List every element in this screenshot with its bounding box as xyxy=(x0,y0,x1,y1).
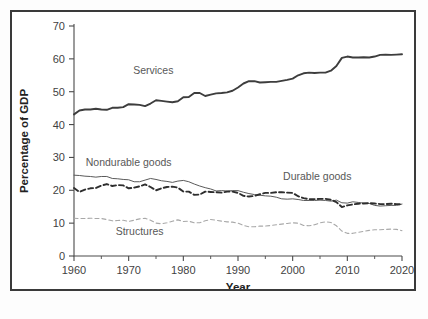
y-tick-label: 0 xyxy=(59,250,65,262)
series-line-services xyxy=(74,54,402,114)
y-tick-label: 50 xyxy=(53,86,65,98)
axis-spines xyxy=(74,24,402,256)
x-tick-label: 1990 xyxy=(226,264,250,276)
x-tick-label: 1980 xyxy=(171,264,195,276)
series-label-services: Services xyxy=(133,64,173,76)
x-axis-title: Year xyxy=(226,281,251,289)
y-tick-label: 20 xyxy=(53,184,65,196)
x-tick-label: 2000 xyxy=(280,264,304,276)
figure-frame: 0102030405060701960197019801990200020102… xyxy=(10,10,416,291)
y-tick-label: 60 xyxy=(53,53,65,65)
y-tick-label: 10 xyxy=(53,217,65,229)
x-tick-label: 2010 xyxy=(335,264,359,276)
y-tick-label: 30 xyxy=(53,151,65,163)
series-label-structures: Structures xyxy=(116,225,164,237)
series-line-durable-goods xyxy=(74,184,402,207)
y-axis-title: Percentage of GDP xyxy=(18,89,30,193)
x-tick-label: 1960 xyxy=(62,264,86,276)
series-label-nondurable-goods: Nondurable goods xyxy=(86,156,172,168)
line-chart: 0102030405060701960197019801990200020102… xyxy=(12,12,414,289)
x-tick-label: 2020 xyxy=(390,264,414,276)
y-tick-label: 40 xyxy=(53,119,65,131)
figure-container: 0102030405060701960197019801990200020102… xyxy=(0,0,428,319)
series-line-nondurable-goods xyxy=(74,175,402,206)
y-tick-label: 70 xyxy=(53,20,65,32)
x-tick-label: 1970 xyxy=(116,264,140,276)
series-label-durable-goods: Durable goods xyxy=(283,170,351,182)
